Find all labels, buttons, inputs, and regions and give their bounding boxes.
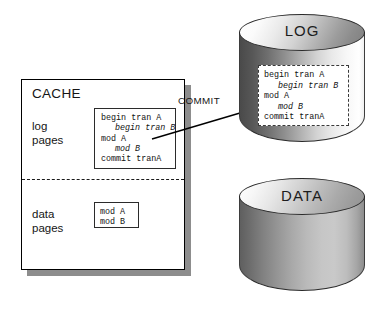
data-line: mod A [100, 207, 133, 217]
log-record-line: mod A [264, 91, 343, 102]
data-pages-label: data pages [32, 208, 63, 235]
log-line: commit tranA [101, 154, 169, 164]
cache-data-pages-box: mod A mod B [94, 202, 139, 228]
log-record-line: begin tran A [264, 70, 343, 81]
commit-arrow-label: COMMIT [178, 95, 220, 106]
log-device-title: LOG [239, 22, 365, 39]
data-line: mod B [100, 217, 133, 227]
log-record-line: mod B [264, 102, 343, 113]
cache-section-divider [22, 179, 184, 180]
diagram-canvas: CACHE log pages begin tran A begin tran … [0, 0, 382, 318]
log-record-line: begin tran B [264, 81, 343, 92]
log-device-record-box: begin tran A begin tran B mod A mod B co… [258, 65, 349, 126]
data-device-title: DATA [239, 187, 365, 204]
cache-title: CACHE [32, 86, 81, 101]
log-record-line: commit tranA [264, 112, 343, 123]
log-pages-label: log pages [32, 120, 63, 147]
